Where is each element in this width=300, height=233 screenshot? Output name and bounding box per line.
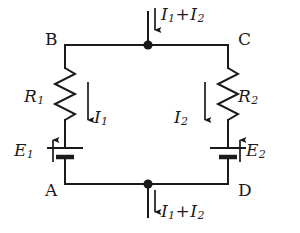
current-label-top-operator: + [176, 4, 190, 24]
resistor-left-zigzag [55, 68, 75, 120]
battery-label-E1: E1 [14, 142, 34, 160]
bottom-junction-dot [143, 179, 152, 188]
battery-label-E2-subscript: 2 [259, 148, 266, 161]
current-label-I1: I1 [94, 109, 108, 127]
current-label-top-lead: I1+I2 [161, 6, 204, 24]
current-label-I2-subscript: 2 [181, 115, 188, 128]
current-label-top-first-symbol: I [161, 4, 168, 24]
battery-label-E2-symbol: E [246, 140, 258, 160]
current-label-I1-subscript: 1 [101, 115, 108, 128]
circuit-diagram: B C A D R1 R2 E1 E2 I1 I2 I1+I2 I1+I2 [0, 0, 300, 233]
current-label-bottom-first-subscript: 1 [168, 209, 175, 222]
node-label-B: B [45, 31, 58, 48]
current-label-bottom-lead: I1+I2 [161, 203, 204, 221]
resistor-label-R1: R1 [24, 88, 44, 106]
battery-label-E1-subscript: 1 [27, 148, 34, 161]
current-label-bottom-operator: + [176, 201, 190, 221]
current-label-bottom-first-symbol: I [161, 201, 168, 221]
node-label-A: A [45, 182, 57, 199]
resistor-label-R2: R2 [238, 88, 258, 106]
current-label-I2-symbol: I [174, 107, 181, 127]
current-label-I1-symbol: I [94, 107, 101, 127]
resistor-label-R1-symbol: R [24, 86, 37, 106]
current-label-top-first-subscript: 1 [168, 12, 175, 25]
resistor-right-zigzag [218, 68, 238, 120]
resistor-label-R2-subscript: 2 [251, 94, 258, 107]
battery-label-E2: E2 [246, 142, 266, 160]
node-label-D: D [238, 182, 252, 199]
battery-label-E1-symbol: E [14, 140, 26, 160]
resistor-label-R2-symbol: R [238, 86, 251, 106]
resistor-label-R1-subscript: 1 [37, 94, 44, 107]
current-label-top-second-subscript: 2 [197, 12, 204, 25]
current-label-bottom-second-subscript: 2 [197, 209, 204, 222]
node-label-C: C [238, 31, 251, 48]
top-junction-dot [143, 40, 152, 49]
current-label-I2: I2 [174, 109, 188, 127]
